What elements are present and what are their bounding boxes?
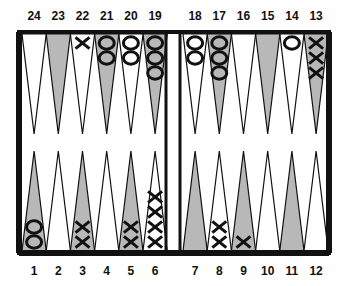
point-5[interactable] — [119, 151, 143, 251]
point-3[interactable] — [70, 151, 94, 251]
point-7[interactable] — [183, 151, 207, 251]
point-16[interactable] — [231, 34, 255, 134]
point-23[interactable] — [46, 34, 70, 134]
point-label-6: 6 — [140, 261, 170, 281]
point-6[interactable] — [143, 151, 167, 251]
backgammon-board — [0, 0, 337, 286]
point-label-12: 12 — [301, 261, 331, 281]
board-points — [22, 34, 328, 251]
point-8[interactable] — [207, 151, 231, 251]
point-12[interactable] — [304, 151, 328, 251]
board-checkers — [27, 37, 324, 248]
point-4[interactable] — [95, 151, 119, 251]
point-24[interactable] — [22, 34, 46, 134]
point-2[interactable] — [46, 151, 70, 251]
bottom-point-labels: 1 2 3 4 5 6 7 8 9 10 11 12 — [0, 261, 337, 281]
point-15[interactable] — [256, 34, 280, 134]
point-11[interactable] — [280, 151, 304, 251]
point-22[interactable] — [70, 34, 94, 134]
point-13[interactable] — [304, 34, 328, 134]
point-9[interactable] — [231, 151, 255, 251]
point-10[interactable] — [256, 151, 280, 251]
